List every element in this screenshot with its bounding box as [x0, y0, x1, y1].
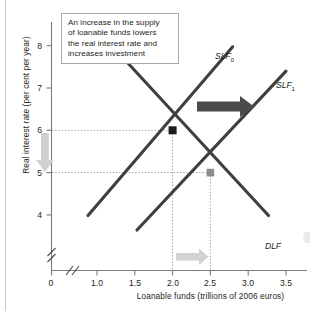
- curve-slf1: [137, 71, 286, 230]
- x-axis-ticks: [52, 271, 287, 276]
- page-edge-artifact: [303, 232, 310, 243]
- equilibrium-guidelines: [52, 130, 210, 270]
- curves: [88, 44, 286, 230]
- curve-label-dlf-text: DLF: [265, 241, 281, 251]
- curve-label-dlf: DLF: [265, 241, 281, 251]
- curve-slf0: [88, 47, 233, 216]
- explanation-line-4: increases investment: [68, 49, 173, 59]
- curve-dlf: [111, 44, 269, 215]
- x-tick-label-2-5: 2.5: [199, 278, 221, 288]
- marker-initial-equilibrium: [169, 126, 177, 134]
- y-axis-ticks: [47, 46, 52, 215]
- loanable-funds-figure: An increase in the supply of loanable fu…: [0, 0, 315, 311]
- y-tick-label-4: 4: [28, 210, 42, 220]
- investment-increase-arrow: [176, 249, 209, 265]
- y-tick-label-6: 6: [28, 125, 42, 135]
- x-tick-label-3-5: 3.5: [275, 278, 297, 288]
- curve-label-slf1-text: SLF: [276, 80, 292, 90]
- y-tick-label-7: 7: [28, 83, 42, 93]
- curve-label-slf0-subscript: 0: [231, 56, 234, 63]
- y-tick-label-5: 5: [28, 168, 42, 178]
- explanation-box: An increase in the supply of loanable fu…: [61, 13, 179, 64]
- explanation-line-1: An increase in the supply: [68, 18, 173, 28]
- curve-label-slf0: SLF0: [215, 51, 234, 63]
- curve-label-slf0-text: SLF: [215, 51, 231, 61]
- x-tick-label-0: 0: [40, 278, 62, 288]
- explanation-line-2: of loanable funds lowers: [68, 28, 173, 38]
- x-axis-title: Loanable funds (trillions of 2006 euros): [108, 291, 313, 301]
- x-tick-label-1-0: 1.0: [86, 278, 108, 288]
- curve-label-slf1: SLF1: [276, 80, 295, 92]
- x-tick-label-3-0: 3.0: [237, 278, 259, 288]
- x-tick-label-2-0: 2.0: [162, 278, 184, 288]
- marker-new-equilibrium: [207, 169, 215, 177]
- curve-label-slf1-subscript: 1: [292, 85, 295, 92]
- x-tick-label-1-5: 1.5: [124, 278, 146, 288]
- explanation-line-3: the real interest rate and: [68, 39, 173, 49]
- page-margin-rule: [5, 0, 6, 311]
- y-tick-label-8: 8: [28, 41, 42, 51]
